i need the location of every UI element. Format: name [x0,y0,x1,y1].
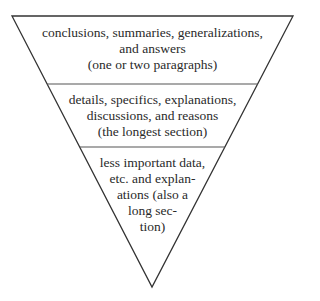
section-1-line-2: and answers [32,41,273,57]
section-3-line-2: etc. and explan- [92,171,213,187]
section-3-line-5: tion) [92,219,213,235]
section-conclusions: conclusions, summaries, generalizations,… [32,25,273,73]
section-3-line-4: long sec- [92,203,213,219]
section-details: details, specifics, explanations, discus… [62,92,243,140]
section-less-important: less important data, etc. and explan- at… [92,155,213,235]
section-2-line-2: discussions, and reasons [62,108,243,124]
section-3-line-1: less important data, [92,155,213,171]
section-2-line-3: (the longest section) [62,124,243,140]
section-2-line-1: details, specifics, explanations, [62,92,243,108]
section-1-line-3: (one or two paragraphs) [32,57,273,73]
section-1-line-1: conclusions, summaries, generalizations, [32,25,273,41]
section-3-line-3: ations (also a [92,187,213,203]
